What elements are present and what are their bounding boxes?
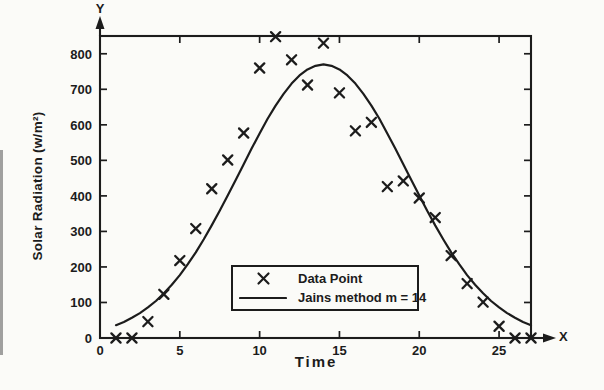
x-tick-label: 0 <box>96 343 103 358</box>
data-point-marker <box>303 80 312 89</box>
chart-canvas: 05101520250100200300400500600700800 <box>0 0 604 390</box>
data-point-marker <box>207 184 216 193</box>
y-axis-title: Solar Radiation (w/m²) <box>30 105 48 267</box>
y-tick-label: 200 <box>70 260 92 275</box>
y-tick-label: 600 <box>70 118 92 133</box>
data-point-marker <box>175 256 184 265</box>
data-point-marker <box>319 39 328 48</box>
y-tick-label: 300 <box>70 224 92 239</box>
legend-entry-jains-method: Jains method m = 14 <box>239 288 415 307</box>
data-point-marker <box>191 224 200 233</box>
x-tick-label: 5 <box>176 343 183 358</box>
data-point-marker <box>287 55 296 64</box>
y-tick-label: 400 <box>70 189 92 204</box>
x-tick-label: 10 <box>252 343 266 358</box>
line-sample-icon <box>239 295 287 301</box>
y-tick-label: 500 <box>70 153 92 168</box>
data-point-marker <box>255 63 264 72</box>
legend-entry-data-point: Data Point <box>239 269 415 288</box>
legend-label-jains-method: Jains method m = 14 <box>298 290 426 305</box>
data-point-marker <box>399 176 408 185</box>
legend: Data Point Jains method m = 14 <box>231 265 419 311</box>
data-point-marker <box>479 298 488 307</box>
legend-label-data-point: Data Point <box>298 271 362 286</box>
data-point-marker <box>335 88 344 97</box>
data-point-marker <box>239 128 248 137</box>
data-point-marker <box>494 322 503 331</box>
data-point-marker <box>143 317 152 326</box>
data-point-marker <box>223 155 232 164</box>
x-marker-icon <box>239 271 287 286</box>
data-point-marker <box>351 126 360 135</box>
data-point-marker <box>367 118 376 127</box>
x-axis-arrow-label: X <box>559 329 579 344</box>
y-axis-arrow-icon <box>96 16 105 29</box>
data-point-marker <box>383 182 392 191</box>
y-tick-label: 800 <box>70 47 92 62</box>
x-tick-label: 20 <box>412 343 426 358</box>
y-tick-label: 700 <box>70 82 92 97</box>
x-axis-arrow-icon <box>543 334 556 343</box>
y-axis-arrow-label: Y <box>88 1 112 16</box>
chart-figure: 05101520250100200300400500600700800 Sola… <box>0 0 604 390</box>
x-axis-title: Time <box>276 353 356 370</box>
x-tick-label: 25 <box>492 343 506 358</box>
y-tick-label: 100 <box>70 295 92 310</box>
y-tick-label: 0 <box>85 331 92 346</box>
